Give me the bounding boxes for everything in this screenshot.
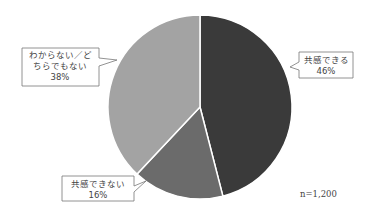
callout-unsure-line2: ちらでもない [33, 61, 87, 71]
callout-unsure-line1: わからない／ど [29, 50, 92, 60]
callout-agree-value: 46% [317, 66, 336, 76]
callout-agree: 共感できる 46% [290, 52, 353, 78]
pie-chart: 共感できる 46% わからない／ど ちらでもない 38% 共感できない 16% … [0, 0, 378, 217]
callout-disagree-label: 共感できない [71, 179, 125, 189]
sample-size-label: n=1,200 [300, 189, 337, 199]
pie-slices [108, 15, 292, 199]
callout-disagree-value: 16% [89, 190, 108, 200]
callout-agree-label: 共感できる [304, 55, 349, 65]
callout-unsure: わからない／ど ちらでもない 38% [22, 48, 117, 86]
callout-unsure-value: 38% [51, 72, 70, 82]
callout-disagree: 共感できない 16% [62, 176, 146, 201]
